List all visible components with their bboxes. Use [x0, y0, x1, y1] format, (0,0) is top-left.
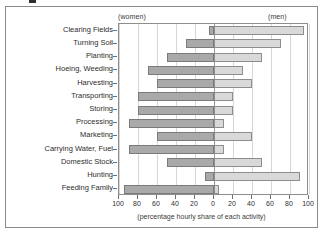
x-tick-label: 0 [211, 200, 215, 207]
y-tick [113, 43, 117, 44]
category-label: Feeding Family [62, 183, 113, 192]
y-tick [113, 162, 117, 163]
bar-men [214, 79, 252, 88]
y-tick [113, 122, 117, 123]
gridline [119, 24, 120, 194]
x-tick-label: 60 [152, 200, 160, 207]
category-label: Marketing [80, 130, 113, 139]
x-tick [175, 195, 176, 199]
men-header-label: (men) [268, 13, 287, 20]
x-tick [213, 195, 214, 199]
plot-area [118, 23, 308, 195]
category-label: Processing [76, 117, 113, 126]
population-pyramid-chart: (women) (men) Clearing FieldsTurning Soi… [0, 0, 325, 238]
category-label: Domestic Stock [61, 157, 113, 166]
gridline [290, 24, 291, 194]
x-tick [156, 195, 157, 199]
bar-men [214, 185, 219, 194]
y-tick [113, 149, 117, 150]
bar-men [214, 145, 224, 154]
bar-women [138, 106, 214, 115]
category-label: Clearing Fields [63, 25, 113, 34]
y-tick [113, 69, 117, 70]
bar-men [214, 158, 262, 167]
x-tick-label: 100 [302, 200, 314, 207]
category-label: Hunting [87, 170, 113, 179]
category-label: Turning Soil [73, 38, 113, 47]
bar-men [214, 26, 304, 35]
bar-men [214, 132, 252, 141]
x-tick-label: 20 [228, 200, 236, 207]
bar-women [148, 66, 215, 75]
category-label: Planting [86, 51, 113, 60]
y-tick [113, 109, 117, 110]
x-tick [270, 195, 271, 199]
bar-women [167, 53, 215, 62]
bar-women [186, 39, 215, 48]
y-tick [113, 96, 117, 97]
women-header-label: (women) [118, 13, 146, 20]
category-label: Hoeing, Weeding [56, 64, 113, 73]
category-label: Carrying Water, Fuel [45, 144, 114, 153]
bar-men [214, 172, 300, 181]
y-tick [113, 83, 117, 84]
bar-men [214, 39, 281, 48]
y-tick [113, 56, 117, 57]
y-tick [113, 30, 117, 31]
x-axis-title: (percentage hourly share of each activit… [0, 213, 325, 220]
x-tick-label: 80 [285, 200, 293, 207]
gridline [271, 24, 272, 194]
y-tick [113, 188, 117, 189]
x-tick [289, 195, 290, 199]
x-tick [118, 195, 119, 199]
category-label: Storing [89, 104, 113, 113]
gridline [252, 24, 253, 194]
bar-men [214, 119, 224, 128]
y-tick [113, 175, 117, 176]
bar-women [138, 92, 214, 101]
x-tick-label: 20 [190, 200, 198, 207]
bar-men [214, 66, 243, 75]
bar-women [157, 132, 214, 141]
bar-women [205, 172, 215, 181]
x-tick-label: 40 [247, 200, 255, 207]
x-tick-label: 80 [133, 200, 141, 207]
bar-women [124, 185, 214, 194]
bar-women [129, 119, 215, 128]
x-tick [137, 195, 138, 199]
category-label: Transporting [71, 91, 113, 100]
x-tick [232, 195, 233, 199]
x-tick-label: 60 [266, 200, 274, 207]
x-axis-title-text: (percentage hourly share of each activit… [137, 213, 265, 220]
gridline [309, 24, 310, 194]
y-tick [113, 135, 117, 136]
x-tick-label: 100 [112, 200, 124, 207]
category-label: Harvesting [77, 78, 113, 87]
x-tick-label: 40 [171, 200, 179, 207]
bar-men [214, 53, 262, 62]
x-tick [251, 195, 252, 199]
bar-women [129, 145, 215, 154]
bar-women [157, 79, 214, 88]
category-axis-labels: Clearing FieldsTurning SoilPlantingHoein… [0, 23, 113, 195]
bar-men [214, 92, 233, 101]
bar-men [214, 106, 233, 115]
x-tick [194, 195, 195, 199]
gridline [233, 24, 234, 194]
bar-women [167, 158, 215, 167]
x-tick [308, 195, 309, 199]
